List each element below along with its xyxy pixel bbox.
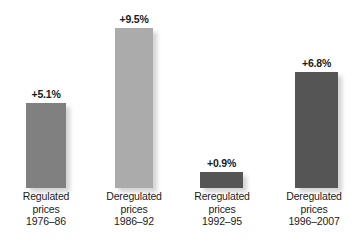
category-label-3-line-2: 1996–2007 <box>272 215 356 228</box>
bar-rect-1 <box>115 28 153 188</box>
category-label-1: Deregulated prices 1986–92 <box>96 190 172 228</box>
category-label-0-line-2: 1976–86 <box>8 215 84 228</box>
category-label-2: Reregulated prices 1992–95 <box>183 190 261 228</box>
category-label-1-line-0: Deregulated <box>96 190 172 203</box>
category-label-0-line-0: Regulated <box>8 190 84 203</box>
category-label-3-line-1: prices <box>272 203 356 216</box>
category-label-0-line-1: prices <box>8 203 84 216</box>
plot-area: +5.1% +9.5% +0.9% +6.8% <box>0 0 358 188</box>
category-label-2-line-0: Reregulated <box>183 190 261 203</box>
category-label-2-line-1: prices <box>183 203 261 216</box>
bar-rect-2 <box>200 172 243 188</box>
category-label-1-line-1: prices <box>96 203 172 216</box>
bar-chart: +5.1% +9.5% +0.9% +6.8% Regulated prices… <box>0 0 358 244</box>
bar-value-label-0: +5.1% <box>31 88 60 100</box>
bar-group-0: +5.1% <box>26 103 66 188</box>
category-label-3-line-0: Deregulated <box>272 190 356 203</box>
bar-rect-0 <box>26 103 66 188</box>
category-label-3: Deregulated prices 1996–2007 <box>272 190 356 228</box>
bar-group-3: +6.8% <box>295 72 338 188</box>
category-label-1-line-2: 1986–92 <box>96 215 172 228</box>
bar-value-label-2: +0.9% <box>207 157 236 169</box>
bar-value-label-1: +9.5% <box>119 13 148 25</box>
bar-rect-3 <box>295 72 338 188</box>
category-label-2-line-2: 1992–95 <box>183 215 261 228</box>
bar-value-label-3: +6.8% <box>302 57 331 69</box>
bar-group-2: +0.9% <box>200 172 243 188</box>
category-label-0: Regulated prices 1976–86 <box>8 190 84 228</box>
category-axis-labels: Regulated prices 1976–86 Deregulated pri… <box>0 190 358 244</box>
bar-group-1: +9.5% <box>115 28 153 188</box>
